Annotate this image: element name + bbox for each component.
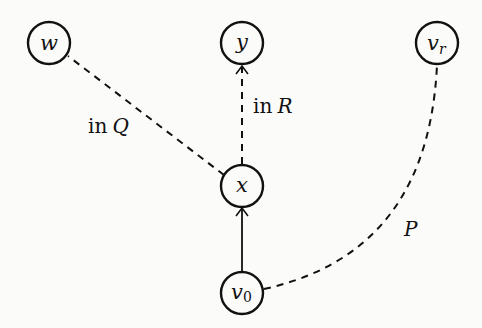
node-v0: v0	[221, 272, 263, 314]
graph-diagram: w y vr x v0 in Q in R P	[0, 0, 482, 328]
label-in-r: in R	[253, 94, 292, 118]
label-in-q: in Q	[88, 114, 129, 138]
svg-text:y: y	[235, 30, 249, 54]
node-vr: vr	[416, 22, 458, 64]
label-p: P	[403, 217, 418, 241]
node-w: w	[28, 22, 70, 64]
node-x: x	[221, 165, 263, 207]
svg-text:x: x	[236, 173, 248, 197]
node-y: y	[221, 22, 263, 64]
svg-text:w: w	[40, 31, 58, 55]
